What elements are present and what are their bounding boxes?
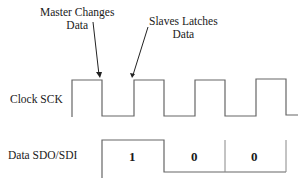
master-arrow-icon	[93, 22, 102, 78]
data-bit-0: 1	[129, 149, 136, 165]
data-bit-2: 0	[251, 149, 258, 165]
timing-diagram	[0, 0, 307, 179]
clock-waveform	[72, 79, 298, 117]
data-bit-1: 0	[191, 149, 198, 165]
slave-arrow-icon	[130, 27, 148, 78]
